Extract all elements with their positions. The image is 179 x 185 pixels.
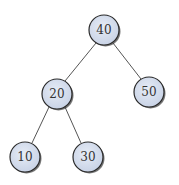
- edge-20-30: [65, 107, 81, 143]
- tree-node-30: 30: [73, 142, 105, 174]
- node-label-40: 40: [96, 23, 111, 37]
- node-label-50: 50: [141, 85, 156, 99]
- node-label-30: 30: [80, 150, 95, 164]
- tree-node-50: 50: [134, 77, 166, 109]
- edge-20-10: [32, 107, 49, 143]
- binary-tree-diagram: 40 20 50 10 30: [0, 0, 179, 185]
- tree-node-10: 10: [10, 142, 42, 174]
- node-label-20: 20: [49, 87, 64, 101]
- tree-node-40: 40: [89, 15, 121, 47]
- node-label-10: 10: [17, 150, 32, 164]
- tree-node-20: 20: [42, 79, 74, 111]
- edge-40-50: [113, 43, 141, 79]
- edge-40-20: [65, 43, 96, 81]
